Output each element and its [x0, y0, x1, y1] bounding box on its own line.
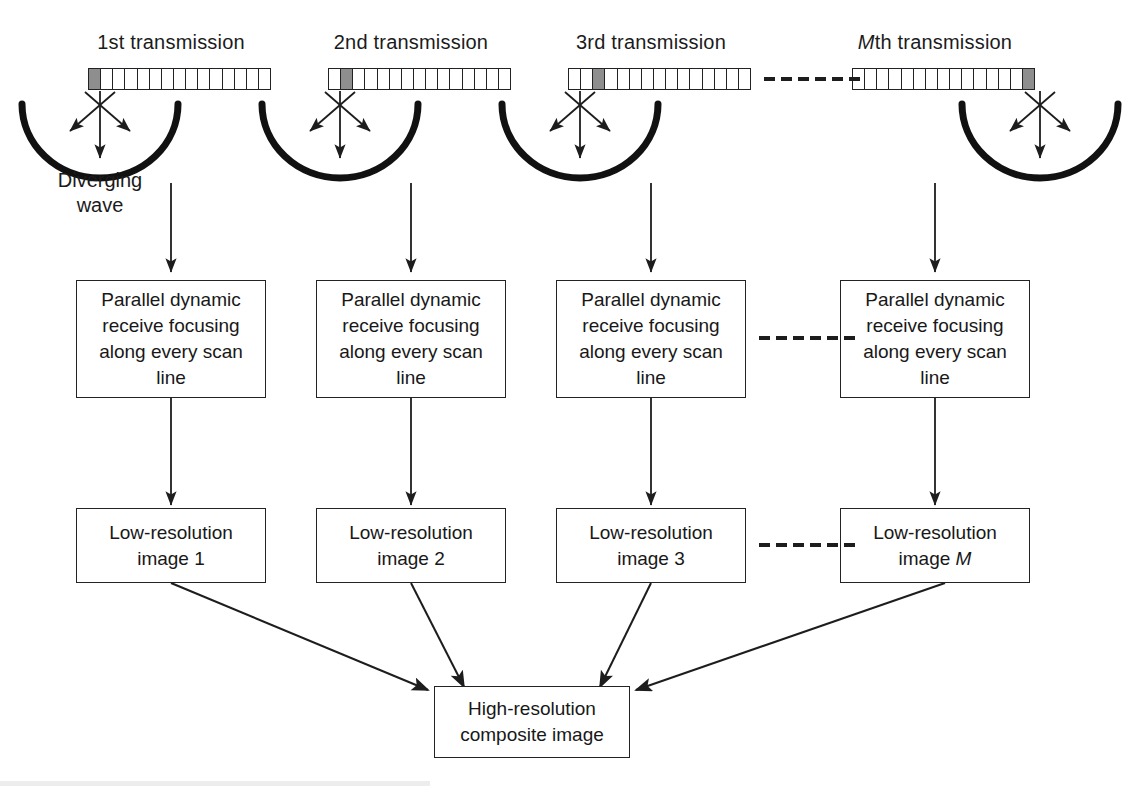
wave-arrow-left-col3 [550, 92, 595, 131]
wave-arrow-right-col2 [325, 92, 370, 131]
transducer-element [138, 69, 150, 89]
ellipsis-dash [776, 336, 787, 340]
diverging-wave-label-line2: wave [25, 193, 175, 218]
transducer-element [353, 69, 365, 89]
high-res-composite-box[interactable]: High-resolution composite image [434, 686, 630, 758]
transducer-element-active [1023, 69, 1034, 89]
ellipsis-dash [832, 77, 843, 81]
process-box-col3-line3: along every scan line [563, 339, 739, 391]
process-box-col2[interactable]: Parallel dynamic receive focusing along … [316, 280, 506, 398]
process-box-col1[interactable]: Parallel dynamic receive focusing along … [76, 280, 266, 398]
transducer-element [402, 69, 414, 89]
ellipsis-dash [759, 543, 770, 547]
low-res-image-box-col3[interactable]: Low-resolution image 3 [556, 508, 746, 583]
wavefront-arc-col3 [502, 104, 658, 178]
low-res-image-col3-index: 3 [674, 548, 685, 569]
process-box-colM[interactable]: Parallel dynamic receive focusing along … [840, 280, 1030, 398]
arrow-compound-col2 [411, 583, 464, 687]
transducer-element [654, 69, 666, 89]
transducer-element [390, 69, 402, 89]
transducer-array-col1 [88, 68, 271, 90]
column-title-suffix-col1: transmission [124, 31, 244, 53]
low-res-image-col2-prefix: image [377, 548, 434, 569]
transducer-element [569, 69, 581, 89]
low-res-image-col2-index: 2 [434, 548, 445, 569]
column-title-prefix-col3: 3rd [576, 31, 606, 53]
low-res-image-box-col1[interactable]: Low-resolution image 1 [76, 508, 266, 583]
transducer-element [414, 69, 426, 89]
ellipsis-dash [776, 543, 787, 547]
column-title-suffix-col3: transmission [606, 31, 726, 53]
transducer-element [463, 69, 475, 89]
low-res-image-col1-prefix: image [137, 548, 194, 569]
low-res-image-box-colM-line2: image M [873, 546, 997, 572]
ellipsis-dash [815, 77, 826, 81]
transducer-element-active [341, 69, 353, 89]
transducer-element [914, 69, 926, 89]
ellipsis-dash [844, 336, 855, 340]
low-res-image-box-col2[interactable]: Low-resolution image 2 [316, 508, 506, 583]
wave-arrow-right-col1 [85, 92, 130, 131]
diverging-wave-label: Diverging wave [25, 168, 175, 218]
ellipsis-dash [781, 77, 792, 81]
arrow-compound-colM [636, 583, 945, 690]
transducer-element [247, 69, 259, 89]
ellipsis-image-row [759, 543, 855, 547]
transducer-element [962, 69, 974, 89]
transducer-element [365, 69, 377, 89]
process-box-colM-line1: Parallel dynamic [847, 287, 1023, 313]
transducer-array-col3 [568, 68, 751, 90]
transducer-element [618, 69, 630, 89]
low-res-image-box-colM[interactable]: Low-resolution image M [840, 508, 1030, 583]
scan-artifact [0, 781, 430, 786]
transducer-element [487, 69, 499, 89]
transducer-element [499, 69, 510, 89]
transducer-element [690, 69, 702, 89]
ellipsis-process-row [759, 336, 855, 340]
low-res-image-colM-index: M [956, 548, 972, 569]
transducer-element [450, 69, 462, 89]
transducer-element [378, 69, 390, 89]
ellipsis-dash [849, 77, 860, 81]
ellipsis-dash [827, 336, 838, 340]
transducer-element [727, 69, 739, 89]
arrow-compound-col3 [600, 583, 651, 687]
transducer-element [902, 69, 914, 89]
transducer-element [715, 69, 727, 89]
transducer-element [642, 69, 654, 89]
ellipsis-dash [764, 77, 775, 81]
transducer-element [877, 69, 889, 89]
transducer-element-active [593, 69, 605, 89]
ellipsis-dash [810, 543, 821, 547]
transducer-element [235, 69, 247, 89]
ellipsis-dash [759, 336, 770, 340]
wavefront-arc-col2 [262, 104, 418, 178]
diverging-wave-label-line1: Diverging [25, 168, 175, 193]
transducer-element [223, 69, 235, 89]
process-box-col1-line1: Parallel dynamic [83, 287, 259, 313]
wave-arrow-right-colM [1025, 92, 1070, 131]
column-title-prefix-col1: 1st [97, 31, 124, 53]
transducer-element [329, 69, 341, 89]
transducer-array-colM [852, 68, 1035, 90]
process-box-col3-line1: Parallel dynamic [563, 287, 739, 313]
transducer-element [605, 69, 617, 89]
transducer-element [162, 69, 174, 89]
diverging-wave-group-col2 [262, 91, 418, 178]
transducer-element [150, 69, 162, 89]
column-title-colM: Mth transmission [835, 30, 1035, 54]
transducer-element [259, 69, 270, 89]
wave-arrow-left-colM [1010, 92, 1055, 131]
ellipsis-dash [793, 543, 804, 547]
transducer-element [666, 69, 678, 89]
transducer-element [865, 69, 877, 89]
diverging-wave-group-col1 [22, 91, 178, 178]
transducer-element [426, 69, 438, 89]
wavefront-arc-col1 [22, 104, 178, 178]
low-res-image-box-col1-line2: image 1 [109, 546, 233, 572]
low-res-image-box-col1-line1: Low-resolution [109, 520, 233, 546]
process-box-colM-line2: receive focusing [847, 313, 1023, 339]
column-title-suffix-colM: th transmission [875, 31, 1013, 53]
low-res-image-box-col2-line2: image 2 [349, 546, 473, 572]
process-box-col3[interactable]: Parallel dynamic receive focusing along … [556, 280, 746, 398]
